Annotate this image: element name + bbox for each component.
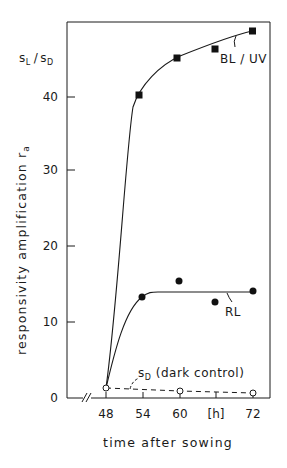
y-tick-labels: 0 10 20 30 40 — [43, 90, 58, 405]
circle-marker — [250, 288, 257, 295]
circle-marker — [176, 278, 183, 285]
rl-label: RL — [225, 305, 241, 319]
open-circle-marker — [103, 385, 109, 391]
open-circle-marker — [250, 390, 256, 396]
bluv-leader-line — [234, 36, 236, 47]
y-tick-30: 30 — [43, 163, 58, 177]
y-ratio-label: sL/sD — [19, 51, 54, 67]
axis-break-icon — [82, 392, 91, 402]
dark-control-label: sD (dark control) — [138, 366, 244, 382]
x-tick-72: 72 — [245, 407, 260, 421]
x-unit-label: [h] — [208, 407, 225, 421]
x-axis-title: time after sowing — [103, 435, 233, 450]
y-axis-title: responsivity amplification ra — [14, 145, 31, 355]
square-marker — [212, 46, 219, 53]
x-tick-labels: 48 54 60 [h] 72 — [98, 407, 260, 421]
bluv-curve — [106, 31, 252, 388]
bluv-label: BL / UV — [220, 52, 267, 66]
dark-control-markers — [103, 385, 256, 396]
square-marker — [174, 55, 181, 62]
square-marker — [249, 28, 256, 35]
square-marker — [136, 92, 143, 99]
circle-marker — [139, 294, 146, 301]
y-tick-40: 40 — [43, 90, 58, 104]
y-tick-0: 0 — [50, 391, 58, 405]
y-tick-10: 10 — [43, 315, 58, 329]
open-circle-marker — [177, 388, 183, 394]
x-tick-54: 54 — [135, 407, 150, 421]
x-tick-48: 48 — [98, 407, 113, 421]
y-tick-20: 20 — [43, 239, 58, 253]
chart: 0 10 20 30 40 48 54 60 [h] 72 time after… — [0, 0, 287, 468]
plot-frame — [67, 22, 270, 398]
rl-leader-line — [227, 293, 232, 302]
x-tick-60: 60 — [172, 407, 187, 421]
y-ticks — [67, 97, 75, 322]
circle-marker — [212, 299, 219, 306]
